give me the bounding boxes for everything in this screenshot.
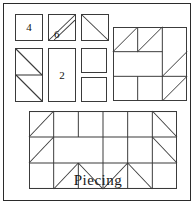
piece-half-square-triangle-pair — [15, 48, 43, 102]
piece-half-square-triangle-top — [81, 14, 109, 41]
piece-narrow-strip-6: 6 — [48, 14, 76, 41]
piece-plain-square-4: 4 — [15, 14, 43, 41]
quarter-block-svg — [113, 27, 187, 101]
figure-frame: 4 6 2 — [3, 3, 191, 201]
figure-caption: Piecing — [4, 172, 192, 189]
quarter-block-diagram — [113, 27, 187, 101]
piece-plain-square-lower — [81, 77, 107, 102]
piece-label-4: 4 — [16, 15, 42, 40]
piece-rectangle-2: 2 — [48, 48, 76, 102]
piece-label-2: 2 — [49, 49, 75, 101]
diagonal-line-icon — [82, 15, 108, 40]
piecing-figure-page: 4 6 2 — [0, 0, 196, 212]
piece-plain-square-upper — [81, 48, 107, 73]
stacked-diagonals-icon — [16, 49, 42, 101]
piece-label-6: 6 — [49, 15, 80, 42]
